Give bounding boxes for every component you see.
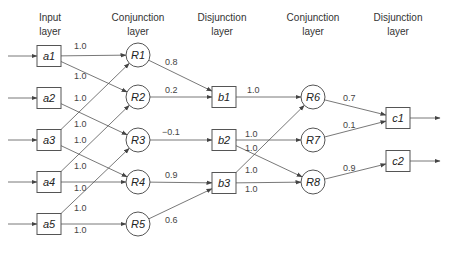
node-label: b3 <box>218 177 231 189</box>
node-a3: a3 <box>37 130 61 151</box>
edge-weight-label: 0.7 <box>343 93 356 103</box>
edge-weight-label: 1.0 <box>74 41 87 51</box>
node-a1: a1 <box>37 46 61 67</box>
edge-weight-label: 0.6 <box>165 215 178 225</box>
node-label: R6 <box>306 91 321 103</box>
node-a2: a2 <box>37 88 61 109</box>
node-label: b1 <box>218 91 230 103</box>
edge-R5-b3 <box>149 189 212 219</box>
edge-b3-R8 <box>236 182 301 183</box>
edge-weight-label: 1.0 <box>245 184 258 194</box>
edge-weight-label: 0.2 <box>165 85 178 95</box>
node-b1: b1 <box>212 87 236 108</box>
node-a5: a5 <box>37 214 61 235</box>
edge-weight-label: 1.0 <box>74 225 87 235</box>
node-b3: b3 <box>212 173 236 194</box>
node-R7: R7 <box>301 128 325 152</box>
edge-weight-label: 1.0 <box>74 183 87 193</box>
edge-weight-label: 1.0 <box>74 203 87 213</box>
node-label: a3 <box>43 134 56 146</box>
node-label: c1 <box>392 112 404 124</box>
node-label: b2 <box>218 134 230 146</box>
edge-weight-label: 1.0 <box>245 129 258 139</box>
node-c1: c1 <box>386 108 410 129</box>
edge-weight-label: 1.0 <box>247 85 260 95</box>
neural-logic-network-diagram: Input layer Conjunction layer Disjunctio… <box>0 0 455 253</box>
node-a4: a4 <box>37 172 61 193</box>
node-R8: R8 <box>301 170 325 194</box>
network-graph: 1.01.01.01.01.01.01.01.01.00.80.2−0.10.9… <box>0 0 455 253</box>
edge-weight-label: 1.0 <box>245 143 258 153</box>
node-label: R2 <box>131 91 145 103</box>
edge-weight-label: 1.0 <box>74 119 87 129</box>
node-label: R7 <box>306 134 321 146</box>
edge-weight-label: −0.1 <box>162 127 180 137</box>
edge-a1-R1 <box>61 55 126 56</box>
edge-weight-label: 0.1 <box>343 120 356 130</box>
edge-weight-label: 1.0 <box>245 165 258 175</box>
node-R1: R1 <box>126 43 150 67</box>
node-label: R4 <box>131 176 145 188</box>
edge-weight-label: 0.9 <box>165 170 178 180</box>
node-R5: R5 <box>126 212 150 236</box>
edge-weight-label: 1.0 <box>74 93 87 103</box>
edge-a1-R2 <box>61 62 127 92</box>
node-label: R1 <box>131 49 145 61</box>
edge-weight-label: 0.9 <box>343 163 356 173</box>
node-label: a4 <box>43 176 55 188</box>
edge-a5-R3 <box>61 148 129 213</box>
edge-R1-b1 <box>149 60 212 91</box>
node-c2: c2 <box>386 151 410 172</box>
node-R3: R3 <box>126 128 150 152</box>
node-b2: b2 <box>212 130 236 151</box>
node-R6: R6 <box>301 85 325 109</box>
edge-a2-R3 <box>61 104 127 135</box>
node-label: a5 <box>43 218 56 230</box>
edge-weight-label: 1.0 <box>74 71 87 81</box>
edge-weight-label: 1.0 <box>74 161 87 171</box>
node-label: R3 <box>131 134 146 146</box>
edge-a3-R4 <box>61 146 127 177</box>
node-label: a1 <box>43 50 55 62</box>
nodes: a1a2a3a4a5R1R2R3R4R5b1b2b3R6R7R8c1c2 <box>37 43 410 236</box>
node-R4: R4 <box>126 170 150 194</box>
edge-weight-label: 1.0 <box>74 135 87 145</box>
node-label: R8 <box>306 176 321 188</box>
node-R2: R2 <box>126 85 150 109</box>
node-label: a2 <box>43 92 55 104</box>
edge-weight-label: 0.8 <box>165 57 178 67</box>
edge-R4-b3 <box>150 182 212 183</box>
node-label: R5 <box>131 218 146 230</box>
node-label: c2 <box>392 155 404 167</box>
